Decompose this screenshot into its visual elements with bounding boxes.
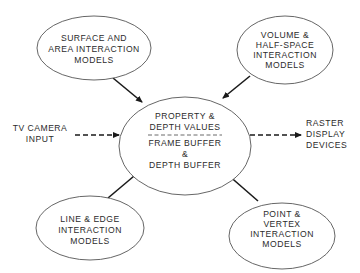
node-surface-line-3: MODELS <box>74 55 113 65</box>
node-point-vertex-line-1: POINT & <box>263 209 301 219</box>
center-line-frame-buffer: FRAME BUFFER <box>149 138 222 148</box>
node-point-vertex-line-4: MODELS <box>262 239 301 249</box>
output-line-1: RASTER <box>306 118 344 128</box>
node-surface: SURFACE AND AREA INTERACTION MODELS <box>37 16 151 80</box>
edge-surface-to-center <box>113 78 142 102</box>
node-line-edge-line-3: MODELS <box>70 236 109 246</box>
input-line-1: TV CAMERA <box>13 123 68 133</box>
output-line-2: DISPLAY <box>306 129 345 139</box>
input-line-2: INPUT <box>26 134 55 144</box>
node-point-vertex-line-2: VERTEX <box>263 219 300 229</box>
external-input: TV CAMERA INPUT <box>13 123 68 144</box>
node-volume-line-1: VOLUME & <box>261 30 309 40</box>
center-line-depth-buffer: DEPTH BUFFER <box>149 160 221 170</box>
node-point-vertex: POINT & VERTEX INTERACTION MODELS <box>229 203 335 269</box>
node-surface-line-2: AREA INTERACTION <box>48 44 140 54</box>
center-line-ampersand: & <box>182 149 188 159</box>
node-volume-line-3: INTERACTION <box>253 50 317 60</box>
diagram-canvas: SURFACE AND AREA INTERACTION MODELS VOLU… <box>0 0 360 273</box>
node-center: PROPERTY & DEPTH VALUES FRAME BUFFER & D… <box>119 97 251 195</box>
center-line-property: PROPERTY & <box>155 111 215 121</box>
output-line-3: DEVICES <box>306 140 347 150</box>
center-line-depth-values: DEPTH VALUES <box>150 122 221 132</box>
node-volume-line-4: MODELS <box>265 60 304 70</box>
node-line-edge-line-1: LINE & EDGE <box>60 214 119 224</box>
node-surface-line-1: SURFACE AND <box>61 33 127 43</box>
node-point-vertex-line-3: INTERACTION <box>250 229 314 239</box>
node-volume: VOLUME & HALF-SPACE INTERACTION MODELS <box>237 16 333 84</box>
edge-volume-to-center <box>223 76 250 98</box>
external-output: RASTER DISPLAY DEVICES <box>306 118 347 150</box>
node-volume-line-2: HALF-SPACE <box>256 40 314 50</box>
node-line-edge-line-2: INTERACTION <box>58 225 122 235</box>
node-line-edge: LINE & EDGE INTERACTION MODELS <box>36 196 144 260</box>
